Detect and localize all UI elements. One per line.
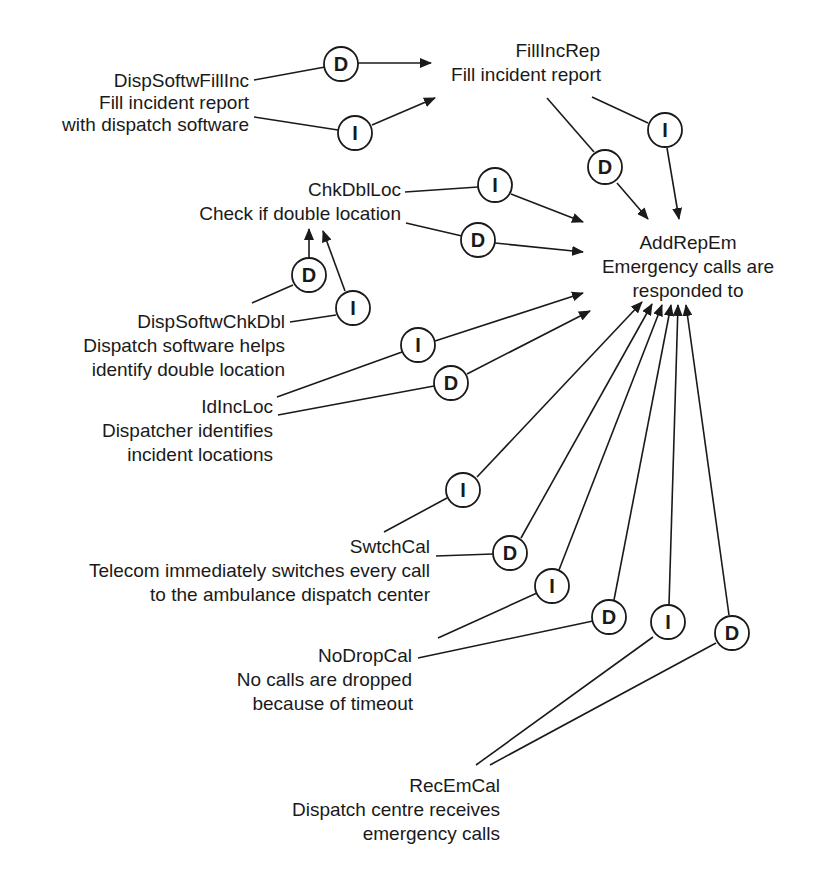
edge-swtchcal-addrepem-d xyxy=(436,304,652,556)
goal-labels: DispSoftwFillInc Fill incident report wi… xyxy=(61,40,774,844)
svg-text:D: D xyxy=(602,606,616,628)
contribution-i-marker[interactable]: I xyxy=(401,328,435,362)
contribution-i-marker[interactable]: I xyxy=(651,605,685,639)
goal-nodropcal[interactable]: NoDropCal No calls are dropped because o… xyxy=(237,645,414,714)
contribution-d-marker[interactable]: D xyxy=(588,150,622,184)
goal-id: RecEmCal xyxy=(409,775,500,796)
goal-addrepem[interactable]: AddRepEm Emergency calls are responded t… xyxy=(602,232,774,301)
svg-text:D: D xyxy=(725,622,739,644)
goal-description: because of timeout xyxy=(252,693,413,714)
goal-description: with dispatch software xyxy=(61,114,249,135)
goal-id: NoDropCal xyxy=(318,645,412,666)
goal-description: Emergency calls are xyxy=(602,256,774,277)
svg-text:I: I xyxy=(350,297,356,319)
contribution-i-marker[interactable]: I xyxy=(648,113,682,147)
goal-dispsoftwchkdbl[interactable]: DispSoftwChkDbl Dispatch software helps … xyxy=(83,311,285,380)
contribution-i-marker[interactable]: I xyxy=(535,569,569,603)
contribution-d-marker[interactable]: D xyxy=(434,366,468,400)
contribution-d-marker[interactable]: D xyxy=(493,536,527,570)
goal-description: to the ambulance dispatch center xyxy=(150,584,431,605)
goal-fillincrep[interactable]: FillIncRep Fill incident report xyxy=(451,40,602,85)
goal-recemcal[interactable]: RecEmCal Dispatch centre receives emerge… xyxy=(292,775,500,844)
goal-id: ChkDblLoc xyxy=(308,179,401,200)
svg-text:D: D xyxy=(444,372,458,394)
svg-text:D: D xyxy=(471,229,485,251)
contribution-i-marker[interactable]: I xyxy=(446,473,480,507)
goal-description: Fill incident report xyxy=(99,92,250,113)
goal-id: DispSoftwChkDbl xyxy=(137,311,285,332)
svg-text:I: I xyxy=(415,334,421,356)
svg-text:I: I xyxy=(549,575,555,597)
goal-id: DispSoftwFillInc xyxy=(114,70,249,91)
goal-chkdblloc[interactable]: ChkDblLoc Check if double location xyxy=(199,179,401,224)
goal-id: FillIncRep xyxy=(516,40,600,61)
goal-dispsoftwfillinc[interactable]: DispSoftwFillInc Fill incident report wi… xyxy=(61,70,250,135)
goal-id: SwtchCal xyxy=(350,536,430,557)
svg-text:I: I xyxy=(662,119,668,141)
contribution-i-marker[interactable]: I xyxy=(478,168,512,202)
goal-description: No calls are dropped xyxy=(237,669,412,690)
svg-text:I: I xyxy=(460,479,466,501)
contribution-d-marker[interactable]: D xyxy=(292,258,326,292)
goal-id: IdIncLoc xyxy=(201,396,273,417)
svg-text:I: I xyxy=(492,174,498,196)
contribution-d-marker[interactable]: D xyxy=(461,223,495,257)
svg-text:D: D xyxy=(503,542,517,564)
goal-swtchcal[interactable]: SwtchCal Telecom immediately switches ev… xyxy=(89,536,431,605)
goal-description: responded to xyxy=(633,280,744,301)
svg-text:I: I xyxy=(352,122,358,144)
goal-description: Telecom immediately switches every call xyxy=(89,560,430,581)
goal-description: Check if double location xyxy=(199,203,401,224)
edge-idincloc-addrepem-d xyxy=(278,311,590,415)
contribution-d-marker[interactable]: D xyxy=(592,600,626,634)
svg-text:D: D xyxy=(598,156,612,178)
goal-description: incident locations xyxy=(127,444,273,465)
svg-text:I: I xyxy=(665,611,671,633)
goal-contribution-diagram: D I D I I D D I I D I D I D I D DispSoft… xyxy=(0,0,819,873)
contribution-i-marker[interactable]: I xyxy=(338,116,372,150)
goal-description: Dispatch software helps xyxy=(83,335,285,356)
svg-text:D: D xyxy=(302,264,316,286)
goal-description: Dispatcher identifies xyxy=(102,420,273,441)
svg-text:D: D xyxy=(334,53,348,75)
contribution-i-marker[interactable]: I xyxy=(336,291,370,325)
goal-description: identify double location xyxy=(92,359,285,380)
contribution-d-marker[interactable]: D xyxy=(324,47,358,81)
contribution-d-marker[interactable]: D xyxy=(715,616,749,650)
goal-idincloc[interactable]: IdIncLoc Dispatcher identifies incident … xyxy=(102,396,273,465)
goal-description: Dispatch centre receives xyxy=(292,799,500,820)
goal-id: AddRepEm xyxy=(639,232,736,253)
edge-recemcal-addrepem-i xyxy=(476,305,678,765)
goal-description: Fill incident report xyxy=(451,64,602,85)
goal-description: emergency calls xyxy=(363,823,500,844)
edge-recemcal-addrepem-d xyxy=(490,305,729,765)
